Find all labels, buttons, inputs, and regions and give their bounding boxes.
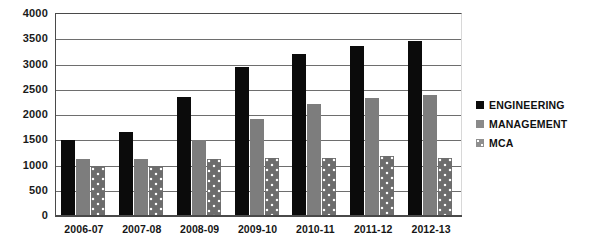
x-axis-tick-label: 2008-09 <box>171 219 229 241</box>
bar-management[interactable] <box>307 104 321 216</box>
square-gray-icon <box>476 120 484 128</box>
x-axis-line <box>55 215 462 217</box>
bar-mca[interactable] <box>438 158 452 216</box>
y-axis-tick-label: 3000 <box>0 58 48 69</box>
x-axis-tick-label: 2012-13 <box>402 219 460 241</box>
bar-group <box>172 14 230 216</box>
x-axis-tick-label: 2011-12 <box>344 219 402 241</box>
legend-item[interactable]: MANAGEMENT <box>476 115 596 132</box>
x-axis-tick-label: 2010-11 <box>286 219 344 241</box>
bar-group <box>403 14 461 216</box>
bar-engineering[interactable] <box>235 67 249 216</box>
y-axis-tick-label: 3500 <box>0 33 48 44</box>
bar-engineering[interactable] <box>350 46 364 216</box>
bar-mca[interactable] <box>91 167 105 216</box>
bar-mca[interactable] <box>380 156 394 216</box>
square-dotted-icon <box>476 139 484 147</box>
legend-item-label: ENGINEERING <box>489 99 565 111</box>
bar-group <box>230 14 288 216</box>
plot-area <box>55 13 462 216</box>
bar-engineering[interactable] <box>177 97 191 216</box>
bar-management[interactable] <box>134 159 148 216</box>
bar-mca[interactable] <box>322 158 336 216</box>
bar-engineering[interactable] <box>61 140 75 216</box>
bar-management[interactable] <box>76 159 90 216</box>
bar-group <box>56 14 114 216</box>
bar-mca[interactable] <box>265 158 279 216</box>
square-black-icon <box>476 101 484 109</box>
y-axis-tick-label: 2500 <box>0 83 48 94</box>
bar-group <box>114 14 172 216</box>
legend-item[interactable]: ENGINEERING <box>476 96 596 113</box>
y-axis-tick-label: 4000 <box>0 8 48 19</box>
x-axis-tick-label: 2007-08 <box>113 219 171 241</box>
chart-legend: ENGINEERINGMANAGEMENTMCA <box>476 96 596 153</box>
bar-mca[interactable] <box>149 167 163 216</box>
bar-management[interactable] <box>192 140 206 216</box>
bar-mca[interactable] <box>207 159 221 216</box>
x-axis-tick-label: 2006-07 <box>55 219 113 241</box>
bar-group <box>345 14 403 216</box>
y-axis-tick-label: 1000 <box>0 159 48 170</box>
legend-item-label: MCA <box>489 137 514 149</box>
y-axis-tick-label: 1500 <box>0 134 48 145</box>
bar-groups <box>56 14 461 216</box>
bar-chart: 40003500300025002000150010005000 2006-07… <box>0 0 601 249</box>
bar-management[interactable] <box>365 98 379 216</box>
y-axis: 40003500300025002000150010005000 <box>0 0 52 249</box>
x-axis-labels: 2006-072007-082008-092009-102010-112011-… <box>55 219 460 241</box>
bar-engineering[interactable] <box>408 41 422 216</box>
legend-item[interactable]: MCA <box>476 134 596 151</box>
bar-management[interactable] <box>423 95 437 216</box>
y-axis-tick-label: 2000 <box>0 109 48 120</box>
x-axis-tick-label: 2009-10 <box>229 219 287 241</box>
y-axis-tick-label: 500 <box>0 184 48 195</box>
legend-item-label: MANAGEMENT <box>489 118 567 130</box>
bar-management[interactable] <box>250 119 264 216</box>
bar-engineering[interactable] <box>119 132 133 216</box>
y-axis-tick-label: 0 <box>0 210 48 221</box>
bar-engineering[interactable] <box>292 54 306 216</box>
bar-group <box>287 14 345 216</box>
